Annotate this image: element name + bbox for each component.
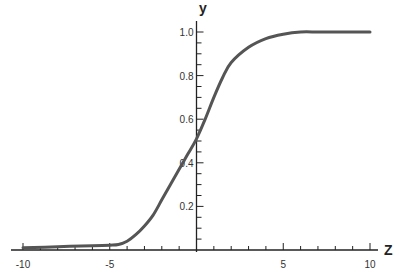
x-tick-label: -5 — [105, 259, 114, 270]
x-tick-label: 10 — [364, 259, 376, 270]
y-tick-label: 0.6 — [180, 114, 194, 125]
x-tick-label: -10 — [16, 259, 31, 270]
x-axis-label: Z — [384, 242, 393, 258]
x-tick-label: 5 — [280, 259, 286, 270]
y-tick-label: 1.0 — [180, 27, 194, 38]
y-tick-label: 0.2 — [180, 201, 194, 212]
y-axis-label: y — [199, 0, 207, 16]
y-tick-label: 0.8 — [180, 71, 194, 82]
axes — [11, 21, 378, 252]
sigmoid-chart: -10-55100.20.40.60.81.0 Z y — [0, 0, 403, 279]
